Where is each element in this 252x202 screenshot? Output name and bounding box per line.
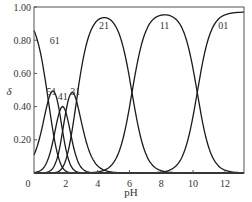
y-tick-label: 1.00 — [14, 2, 32, 13]
curve-label-61: 61 — [50, 35, 60, 46]
y-tick-label: 0.60 — [14, 68, 32, 79]
x-tick-label: 8 — [159, 178, 164, 189]
y-tick-label: 0.20 — [14, 134, 32, 145]
y-tick-label: 0.40 — [14, 101, 32, 112]
curve-label-11: 11 — [160, 20, 170, 31]
y-tick-label: 0.80 — [14, 35, 32, 46]
curve-label-51: 51 — [47, 86, 57, 97]
distribution-chart: 024681012 0.200.400.600.801.00 615141312… — [0, 0, 252, 202]
x-tick-label: 0 — [26, 178, 31, 189]
x-tick-label: 2 — [63, 178, 68, 189]
curve-label-31: 31 — [70, 86, 80, 97]
y-axis: 0.200.400.600.801.00 — [14, 2, 38, 146]
x-tick-label: 10 — [188, 178, 198, 189]
y-axis-title: δ — [6, 85, 12, 97]
curve-label-41: 41 — [58, 91, 68, 102]
curve-label-01: 01 — [218, 20, 228, 31]
curve-label-21: 21 — [99, 20, 109, 31]
x-tick-label: 12 — [220, 178, 230, 189]
x-axis-title: pH — [124, 186, 138, 198]
x-tick-label: 4 — [95, 178, 100, 189]
